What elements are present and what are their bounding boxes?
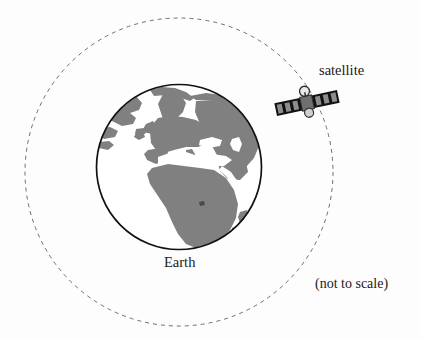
satellite-graphic bbox=[272, 80, 341, 124]
satellite-orbit-diagram: satellite Earth (not to scale) bbox=[0, 0, 421, 340]
satellite-antenna-mast bbox=[305, 92, 306, 96]
not-to-scale-note: (not to scale) bbox=[315, 277, 388, 291]
satellite-label: satellite bbox=[319, 63, 364, 78]
earth-globe bbox=[96, 85, 262, 251]
interior-mark-c bbox=[226, 235, 231, 240]
earth-label: Earth bbox=[164, 255, 195, 270]
